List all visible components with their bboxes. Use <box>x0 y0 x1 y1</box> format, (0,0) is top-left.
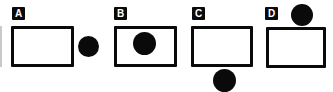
cropped-edge-line <box>0 26 2 67</box>
rectangle-shape <box>11 26 74 67</box>
rectangle-shape <box>266 27 326 68</box>
panel-d-label: D <box>265 7 278 20</box>
rectangle-shape <box>191 26 253 67</box>
circle-dot <box>291 4 313 26</box>
circle-dot <box>213 69 236 92</box>
panel-c-label: C <box>192 7 205 20</box>
circle-dot <box>78 36 99 57</box>
spatial-relations-figure: A B C D <box>0 0 333 92</box>
circle-dot <box>133 32 156 55</box>
panel-b-label: B <box>114 7 127 20</box>
panel-a-label: A <box>12 7 25 20</box>
